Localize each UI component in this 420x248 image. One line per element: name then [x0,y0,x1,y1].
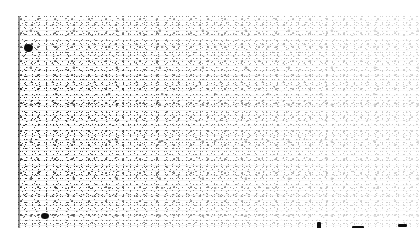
noise-density-gradient-vertical [18,16,420,228]
speckle-noise-coarse [18,16,420,228]
scanline-striping [18,16,420,228]
page-edge-left [18,16,20,228]
ink-mark-bottom-far-right [398,224,407,227]
page-margin-top [0,0,420,16]
speckle-noise-mid [18,16,420,228]
page-margin-left [0,0,18,248]
scan-page-area [18,16,420,228]
noise-density-gradient-horizontal [18,16,420,228]
scanned-image [0,0,420,248]
speckle-noise-fine [18,16,420,228]
page-margin-bottom [0,228,420,248]
ink-blot-upper-left [24,44,33,52]
ink-blot-lower-left [41,213,49,219]
